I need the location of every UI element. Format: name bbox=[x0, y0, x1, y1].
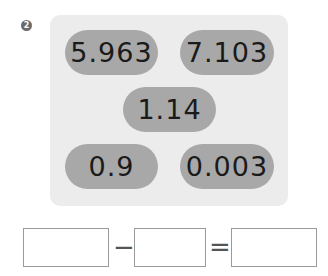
number-card: 1.14 bbox=[123, 87, 216, 132]
answer-box-difference[interactable] bbox=[231, 228, 317, 267]
minus-sign: − bbox=[113, 230, 135, 264]
number-card: 7.103 bbox=[180, 30, 274, 75]
number-card: 0.003 bbox=[180, 144, 274, 189]
problem-number-badge: 2 bbox=[21, 20, 32, 31]
number-card: 0.9 bbox=[65, 144, 158, 189]
answer-box-minuend[interactable] bbox=[23, 228, 109, 267]
answer-box-subtrahend[interactable] bbox=[134, 228, 206, 267]
number-card: 5.963 bbox=[65, 30, 158, 75]
equals-sign: = bbox=[209, 230, 231, 264]
